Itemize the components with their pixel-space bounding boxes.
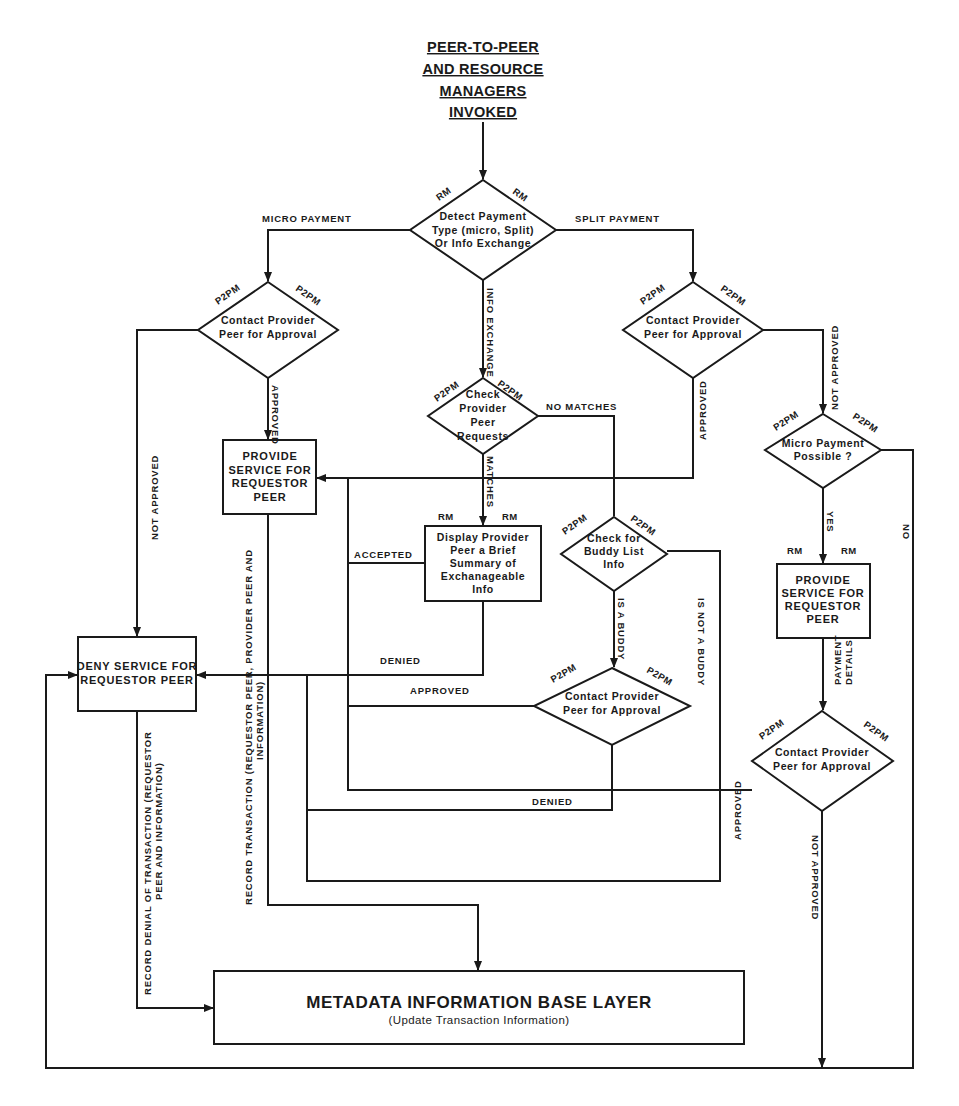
- label-is-a-buddy: IS A BUDDY: [616, 598, 627, 660]
- label-no: NO: [901, 524, 912, 540]
- svg-text:Micro Payment: Micro Payment: [782, 437, 865, 449]
- label-payment-approved: APPROVED: [732, 780, 743, 840]
- svg-text:P2PM: P2PM: [757, 717, 786, 742]
- tag-rm: RM: [434, 185, 453, 203]
- decision-check-buddy-list[interactable]: P2PM P2PM Check for Buddy List Info: [560, 512, 667, 591]
- edge-split-not-approved: [763, 330, 823, 413]
- svg-text:Summary of: Summary of: [450, 557, 517, 569]
- svg-text:REQUESTOR PEER: REQUESTOR PEER: [80, 674, 194, 686]
- svg-text:RM: RM: [841, 545, 857, 556]
- svg-text:Or Info Exchange: Or Info Exchange: [435, 237, 532, 249]
- svg-text:SERVICE FOR: SERVICE FOR: [228, 464, 311, 476]
- edge-micro-not-approved: [137, 330, 198, 636]
- svg-text:METADATA INFORMATION BASE LAYE: METADATA INFORMATION BASE LAYER: [306, 993, 652, 1012]
- svg-text:Peer: Peer: [470, 416, 495, 428]
- svg-text:Peer for Approval: Peer for Approval: [773, 760, 871, 772]
- process-deny-service[interactable]: DENY SERVICE FOR REQUESTOR PEER: [77, 637, 198, 711]
- svg-text:P2PM: P2PM: [645, 664, 675, 687]
- svg-text:PEER: PEER: [806, 613, 839, 625]
- label-payment-not-approved: NOT APPROVED: [810, 835, 821, 920]
- title-line-1: PEER-TO-PEER: [427, 39, 539, 55]
- label-record-transaction-2: INFORMATION): [254, 681, 265, 760]
- svg-text:Display Provider: Display Provider: [437, 531, 529, 543]
- svg-text:PROVIDE: PROVIDE: [242, 450, 297, 462]
- title-line-4: INVOKED: [449, 104, 517, 120]
- svg-text:P2PM: P2PM: [771, 408, 800, 432]
- svg-text:RM: RM: [787, 545, 803, 556]
- flowchart-canvas: PEER-TO-PEER AND RESOURCE MANAGERS INVOK…: [0, 0, 959, 1106]
- edge-micro-payment: [268, 230, 410, 281]
- svg-text:Requests: Requests: [457, 430, 509, 442]
- svg-text:Info: Info: [472, 583, 494, 595]
- svg-text:REQUESTOR: REQUESTOR: [232, 477, 309, 489]
- label-split-approved: APPROVED: [697, 380, 708, 440]
- svg-text:P2PM: P2PM: [549, 661, 579, 684]
- edge-approved-trunk: [348, 478, 752, 790]
- svg-text:RM: RM: [438, 511, 454, 522]
- label-record-denial-1: RECORD DENIAL OF TRANSACTION (REQUESTOR: [142, 731, 153, 995]
- title-line-3: MANAGERS: [440, 83, 527, 99]
- label-is-not-a-buddy: IS NOT A BUDDY: [696, 598, 707, 686]
- label-payment-details-2: DETAILS: [843, 639, 854, 685]
- label-no-matches: NO MATCHES: [546, 401, 617, 412]
- label-display-denied: DENIED: [380, 655, 421, 666]
- decision-detect-payment-type[interactable]: RM RM Detect Payment Type (micro, Split)…: [410, 180, 556, 280]
- svg-text:Info: Info: [603, 558, 625, 570]
- svg-text:P2PM: P2PM: [862, 719, 891, 744]
- svg-text:RM: RM: [502, 511, 518, 522]
- label-yes: YES: [825, 511, 836, 532]
- svg-text:DENY SERVICE FOR: DENY SERVICE FOR: [77, 660, 198, 672]
- svg-text:REQUESTOR: REQUESTOR: [785, 600, 862, 612]
- svg-text:Provider: Provider: [459, 402, 506, 414]
- svg-text:Peer for Approval: Peer for Approval: [563, 704, 661, 716]
- svg-text:Peer for Approval: Peer for Approval: [219, 328, 317, 340]
- label-matches: MATCHES: [485, 456, 496, 508]
- edge-display-denied: [197, 601, 483, 675]
- svg-text:P2PM: P2PM: [851, 410, 880, 434]
- title-line-2: AND RESOURCE: [422, 61, 543, 77]
- diagram-title: PEER-TO-PEER AND RESOURCE MANAGERS INVOK…: [422, 39, 543, 120]
- svg-text:SERVICE FOR: SERVICE FOR: [781, 587, 864, 599]
- label-split-payment: SPLIT PAYMENT: [575, 213, 660, 224]
- edge-split-payment: [556, 230, 693, 281]
- decision-micro-payment-possible[interactable]: P2PM P2PM Micro Payment Possible ?: [765, 408, 881, 488]
- label-payment-details-1: PAYMENT: [832, 635, 843, 685]
- svg-text:PEER: PEER: [253, 491, 286, 503]
- svg-text:Contact Provider: Contact Provider: [221, 314, 315, 326]
- label-info-exchange: INFO EXCHANGE: [485, 288, 496, 378]
- label-micro-not-approved: NOT APPROVED: [149, 455, 160, 540]
- svg-text:Peer for Approval: Peer for Approval: [644, 328, 742, 340]
- svg-text:Peer a Brief: Peer a Brief: [450, 544, 516, 556]
- svg-text:Contact Provider: Contact Provider: [646, 314, 740, 326]
- label-accepted: ACCEPTED: [354, 549, 413, 560]
- svg-text:(Update Transaction Informatio: (Update Transaction Information): [389, 1014, 570, 1026]
- edge-no-matches: [538, 416, 614, 516]
- label-micro-approved: APPROVED: [270, 385, 281, 445]
- label-record-denial-2: PEER AND INFORMATION): [153, 762, 164, 900]
- label-buddy-approved: APPROVED: [410, 685, 470, 696]
- svg-text:Exchanageable: Exchanageable: [441, 570, 525, 582]
- svg-text:Check for: Check for: [587, 532, 641, 544]
- label-record-transaction-1: RECORD TRANSACTION (REQUESTOR PEER, PROV…: [243, 549, 254, 905]
- decision-buddy-contact-provider[interactable]: P2PM P2PM Contact Provider Peer for Appr…: [534, 661, 690, 745]
- decision-micro-contact-provider[interactable]: P2PM P2PM Contact Provider Peer for Appr…: [198, 282, 338, 378]
- label-micro-payment: MICRO PAYMENT: [262, 213, 352, 224]
- svg-text:Buddy List: Buddy List: [584, 545, 644, 557]
- decision-payment-contact-provider[interactable]: P2PM P2PM Contact Provider Peer for Appr…: [752, 711, 893, 811]
- decision-split-contact-provider[interactable]: P2PM P2PM Contact Provider Peer for Appr…: [623, 282, 763, 378]
- svg-text:Contact Provider: Contact Provider: [775, 746, 869, 758]
- process-provide-service-left[interactable]: PROVIDE SERVICE FOR REQUESTOR PEER: [223, 440, 316, 514]
- label-split-not-approved: NOT APPROVED: [829, 325, 840, 410]
- label-buddy-denied: DENIED: [532, 796, 573, 807]
- decision-check-provider-requests[interactable]: P2PM P2PM Check Provider Peer Requests: [428, 378, 538, 454]
- svg-text:Check: Check: [466, 388, 501, 400]
- svg-text:Type (micro, Split): Type (micro, Split): [432, 224, 534, 236]
- svg-text:P2PM: P2PM: [560, 512, 589, 537]
- svg-text:Contact Provider: Contact Provider: [565, 690, 659, 702]
- svg-text:Detect Payment: Detect Payment: [439, 210, 526, 222]
- svg-text:PROVIDE: PROVIDE: [795, 574, 850, 586]
- process-metadata-information-base[interactable]: METADATA INFORMATION BASE LAYER (Update …: [214, 971, 744, 1044]
- svg-text:Possible ?: Possible ?: [794, 450, 853, 462]
